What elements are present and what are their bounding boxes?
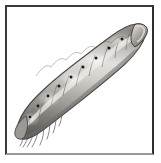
texture-mottle <box>38 91 60 107</box>
spiracle-dot <box>37 105 40 108</box>
spiracle-dot <box>70 76 73 79</box>
spiracle-dot <box>82 66 85 69</box>
texture-mottle <box>109 34 131 48</box>
caterpillar-illustration <box>0 0 161 163</box>
figure-root <box>0 0 161 163</box>
spiracle-dot <box>108 47 111 50</box>
spiracle-dot <box>47 95 50 98</box>
caterpillar-body-group <box>15 24 148 147</box>
spiracle-dot <box>29 116 32 119</box>
spiracle-dot <box>58 85 61 88</box>
spiracle-dot <box>121 38 124 41</box>
texture-mottle <box>60 71 84 87</box>
head-capsule <box>131 24 147 47</box>
texture-mottle <box>84 52 108 68</box>
spiracle-dot <box>95 57 98 60</box>
